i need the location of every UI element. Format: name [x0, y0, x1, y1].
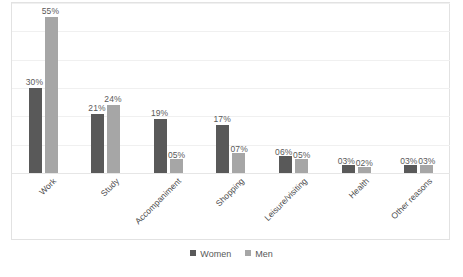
category-label-text: Accompaniment: [133, 176, 183, 226]
bar-women[interactable]: [154, 3, 167, 173]
legend-item-men[interactable]: Men: [245, 248, 273, 259]
bar-rect[interactable]: [170, 159, 183, 173]
legend-swatch-icon: [245, 250, 251, 256]
legend-label: Men: [255, 249, 273, 259]
category-axis-labels: WorkStudyAccompanimentShoppingLeisure/vi…: [12, 176, 450, 238]
legend-item-women[interactable]: Women: [190, 248, 231, 259]
bar-value-label: 03%: [338, 156, 355, 166]
bar-value-label: 24%: [104, 94, 121, 104]
bar-value-label: 17%: [213, 114, 230, 124]
bar-value-label: 21%: [88, 103, 105, 113]
category-label: Leisure/visiting: [262, 176, 309, 223]
bar-value-label: 05%: [293, 150, 310, 160]
bar-value-label: 19%: [151, 108, 168, 118]
bar-women[interactable]: [91, 3, 104, 173]
bar-value-label: 03%: [400, 156, 417, 166]
bar-men[interactable]: [295, 3, 308, 173]
bar-rect[interactable]: [107, 105, 120, 173]
bar-group: 21%24%: [75, 3, 138, 173]
bar-rect[interactable]: [295, 159, 308, 173]
bar-women[interactable]: [404, 3, 417, 173]
category-label-text: Other reasons: [389, 176, 434, 221]
category-label-text: Study: [98, 176, 120, 198]
bar-rect[interactable]: [420, 165, 433, 174]
bar-women[interactable]: [29, 3, 42, 173]
bar-rect[interactable]: [29, 88, 42, 173]
bar-rect[interactable]: [45, 17, 58, 173]
bar-group: 30%55%: [12, 3, 75, 173]
bar-men[interactable]: [420, 3, 433, 173]
bar-men[interactable]: [358, 3, 371, 173]
bar-chart: 30%55%21%24%19%05%17%07%06%05%03%02%03%0…: [0, 0, 463, 277]
bar-group: 17%07%: [200, 3, 263, 173]
bar-women[interactable]: [216, 3, 229, 173]
bars-layer: 30%55%21%24%19%05%17%07%06%05%03%02%03%0…: [12, 3, 450, 173]
bar-group: 06%05%: [262, 3, 325, 173]
bar-men[interactable]: [107, 3, 120, 173]
bar-value-label: 30%: [26, 77, 43, 87]
legend-label: Women: [200, 249, 231, 259]
gridline: [12, 173, 450, 174]
bar-rect[interactable]: [91, 114, 104, 174]
category-label-text: Leisure/visiting: [262, 176, 309, 223]
bar-rect[interactable]: [232, 153, 245, 173]
bar-group: 19%05%: [137, 3, 200, 173]
bar-group: 03%02%: [325, 3, 388, 173]
category-label-text: Work: [37, 176, 58, 197]
bar-value-label: 06%: [275, 147, 292, 157]
bar-women[interactable]: [342, 3, 355, 173]
bar-rect[interactable]: [154, 119, 167, 173]
bar-value-label: 02%: [356, 158, 373, 168]
bar-men[interactable]: [170, 3, 183, 173]
category-label: Health: [347, 176, 371, 200]
category-label-text: Health: [347, 176, 371, 200]
category-label: Study: [98, 176, 120, 198]
chart-legend: WomenMen: [0, 248, 463, 259]
bar-value-label: 07%: [230, 144, 247, 154]
category-label: Other reasons: [389, 176, 434, 221]
bar-rect[interactable]: [404, 165, 417, 174]
category-label: Work: [37, 176, 58, 197]
bar-rect[interactable]: [279, 156, 292, 173]
bar-value-label: 05%: [168, 150, 185, 160]
category-label-text: Shopping: [214, 176, 246, 208]
bar-value-label: 03%: [418, 156, 435, 166]
bar-men[interactable]: [45, 3, 58, 173]
bar-rect[interactable]: [216, 125, 229, 173]
category-label: Accompaniment: [133, 176, 183, 226]
category-label: Shopping: [214, 176, 246, 208]
bar-value-label: 55%: [42, 6, 59, 16]
legend-swatch-icon: [190, 250, 196, 256]
bar-rect[interactable]: [342, 165, 355, 174]
bar-group: 03%03%: [387, 3, 450, 173]
